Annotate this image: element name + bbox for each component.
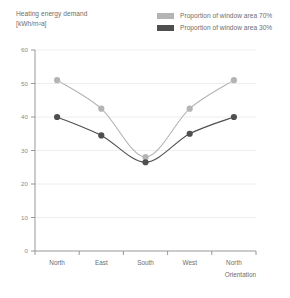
data-point bbox=[187, 131, 193, 137]
data-point bbox=[98, 106, 104, 112]
series-line bbox=[57, 80, 234, 157]
chart-plot-area: 0102030405060 NorthEastSouthWestNorth Or… bbox=[0, 0, 290, 298]
data-point bbox=[98, 132, 104, 138]
y-tick-label: 40 bbox=[21, 113, 28, 120]
data-series-layer bbox=[54, 77, 237, 165]
chart-figure: Heating energy demand [kWh/m²a] Proporti… bbox=[0, 0, 290, 298]
y-axis-ticks: 0102030405060 bbox=[21, 46, 35, 254]
x-axis-title: Orientation bbox=[225, 271, 257, 278]
x-axis-ticks bbox=[35, 251, 256, 255]
data-point bbox=[187, 106, 193, 112]
y-tick-label: 10 bbox=[21, 214, 28, 221]
x-tick-label: South bbox=[137, 259, 154, 266]
data-point bbox=[54, 114, 60, 120]
y-tick-label: 30 bbox=[21, 147, 28, 154]
data-point bbox=[231, 77, 237, 83]
data-point bbox=[231, 114, 237, 120]
x-tick-label: North bbox=[49, 259, 65, 266]
data-point bbox=[54, 77, 60, 83]
category-labels: NorthEastSouthWestNorth bbox=[49, 259, 242, 266]
gridlines bbox=[35, 50, 256, 218]
y-tick-label: 50 bbox=[21, 80, 28, 87]
y-tick-label: 20 bbox=[21, 180, 28, 187]
data-point bbox=[142, 159, 148, 165]
y-tick-label: 60 bbox=[21, 46, 28, 53]
x-tick-label: East bbox=[95, 259, 108, 266]
y-tick-label: 0 bbox=[25, 247, 29, 254]
x-tick-label: West bbox=[182, 259, 197, 266]
x-tick-label: North bbox=[226, 259, 242, 266]
